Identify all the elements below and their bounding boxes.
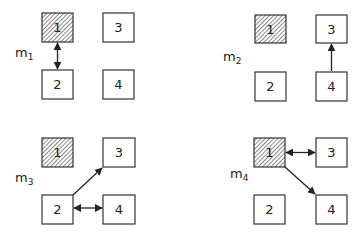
svg-text:4: 4 (327, 202, 335, 217)
edge-1-4-directed (285, 167, 315, 194)
node-2: 2 (42, 70, 73, 99)
svg-text:3: 3 (327, 145, 335, 160)
node-1: 1 (42, 13, 73, 42)
panel-label-m4: m4 (230, 166, 249, 183)
node-4: 4 (316, 195, 347, 224)
svg-text:4: 4 (114, 77, 122, 92)
node-2: 2 (255, 72, 286, 101)
svg-text:2: 2 (266, 79, 274, 94)
node-2: 2 (42, 195, 73, 224)
node-2: 2 (254, 195, 285, 224)
node-1: 1 (254, 138, 285, 167)
node-1: 1 (255, 15, 286, 43)
svg-text:2: 2 (53, 202, 61, 217)
panel-m2: m2 1 3 2 4 (223, 15, 347, 101)
svg-text:1: 1 (53, 20, 61, 35)
edge-2-3-directed (73, 168, 102, 195)
svg-text:2: 2 (53, 77, 61, 92)
node-1: 1 (42, 138, 73, 167)
panel-m1: m1 1 3 2 4 (15, 13, 134, 99)
diagram-canvas: m1 1 3 2 4 m2 1 3 2 (0, 0, 362, 237)
svg-text:1: 1 (265, 145, 273, 160)
svg-text:3: 3 (327, 22, 335, 37)
panel-label-m1: m1 (15, 45, 33, 62)
panel-label-m3: m3 (15, 170, 33, 187)
node-3: 3 (316, 138, 347, 167)
svg-text:4: 4 (115, 202, 123, 217)
panel-m3: m3 1 3 2 4 (15, 138, 135, 224)
node-4: 4 (103, 195, 135, 224)
svg-text:2: 2 (265, 202, 273, 217)
svg-text:1: 1 (53, 145, 61, 160)
node-4: 4 (316, 72, 347, 101)
node-3: 3 (103, 13, 134, 42)
svg-text:1: 1 (266, 22, 274, 37)
node-3: 3 (316, 15, 347, 43)
svg-text:3: 3 (114, 20, 122, 35)
node-3: 3 (103, 138, 135, 167)
node-4: 4 (103, 70, 134, 99)
panel-label-m2: m2 (223, 49, 241, 66)
svg-text:4: 4 (327, 79, 335, 94)
svg-text:3: 3 (115, 145, 123, 160)
panel-m4: m4 1 3 2 4 (230, 138, 347, 224)
